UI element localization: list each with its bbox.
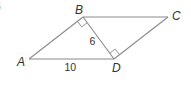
vertex-label-b: B xyxy=(75,3,83,17)
segment-ab xyxy=(29,17,83,59)
problem-number-fragment: 6 xyxy=(0,0,1,12)
vertex-label-d: D xyxy=(112,61,121,75)
segment-cd xyxy=(114,17,168,59)
vertex-label-c: C xyxy=(172,9,181,23)
right-angle-marker-b xyxy=(78,21,88,27)
right-angle-marker-d xyxy=(110,49,120,55)
length-label-bd: 6 xyxy=(90,35,96,47)
length-label-ad: 10 xyxy=(65,61,77,73)
geometry-figure: 6 B C A D 6 10 xyxy=(0,0,191,87)
vertex-label-a: A xyxy=(16,55,25,69)
segment-bd xyxy=(83,17,114,59)
